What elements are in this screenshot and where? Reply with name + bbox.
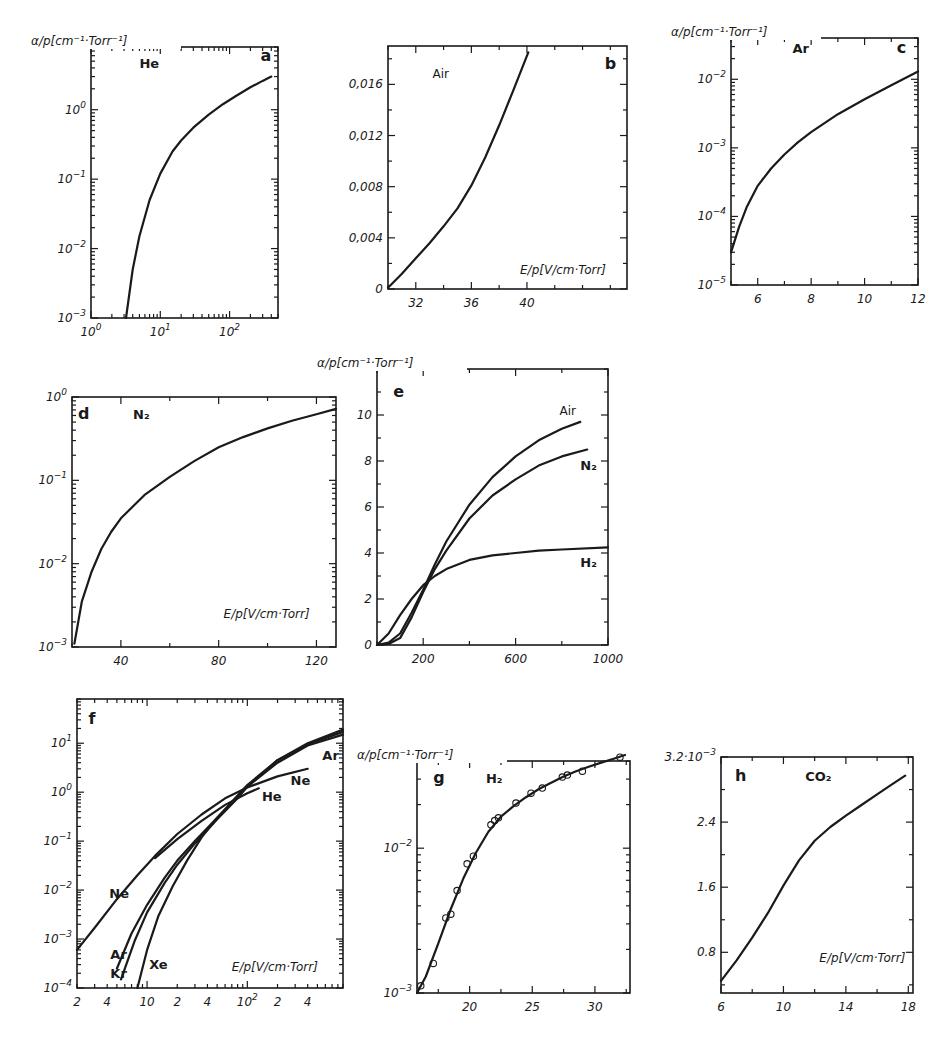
y-tick-label: 10−3 bbox=[57, 308, 86, 325]
panel-letter: g bbox=[433, 768, 444, 787]
x-tick-label: 1000 bbox=[593, 652, 624, 666]
series-label: N₂ bbox=[133, 407, 150, 422]
y-tick-label: 6 bbox=[364, 500, 372, 514]
x-tick-label: 30 bbox=[587, 1000, 603, 1014]
panel-letter: h bbox=[735, 766, 746, 785]
y-axis-title: α/p[cm⁻¹·Torr⁻¹] bbox=[357, 748, 454, 762]
y-tick-label: 10−3 bbox=[38, 637, 67, 654]
y-axis-title: α/p[cm⁻¹·Torr⁻¹] bbox=[31, 34, 128, 48]
x-tick-label: 32 bbox=[408, 296, 423, 310]
multi-panel-chart: 10010110210−310−210−1100α/p[cm⁻¹·Torr⁻¹]… bbox=[0, 0, 948, 1040]
y-tick-label: 10−2 bbox=[57, 239, 86, 256]
series-label: Air bbox=[432, 67, 449, 81]
x-tick-label: 101 bbox=[150, 322, 171, 339]
curve-ar bbox=[731, 72, 918, 253]
series-label: H₂ bbox=[580, 555, 597, 570]
series-label: CO₂ bbox=[805, 769, 831, 784]
x-axis-title: E/p[V/cm·Torr] bbox=[224, 607, 310, 621]
y-tick-label: 0 bbox=[375, 282, 383, 296]
x-tick-label: 20 bbox=[462, 1000, 478, 1014]
x-tick-label: 10 bbox=[139, 995, 155, 1009]
y-tick-label: 8 bbox=[364, 454, 372, 468]
x-tick-label: 4 bbox=[304, 995, 312, 1009]
series-label: Ne bbox=[291, 773, 311, 788]
x-tick-label: 102 bbox=[219, 322, 240, 339]
curve-air bbox=[377, 422, 580, 645]
y-tick-label: 3.2·10−3 bbox=[665, 747, 717, 764]
y-tick-label: 2 bbox=[364, 592, 372, 606]
x-axis-title: E/p[V/cm·Torr] bbox=[819, 951, 905, 965]
y-tick-label: 101 bbox=[51, 733, 72, 750]
x-tick-label: 14 bbox=[838, 1000, 853, 1014]
x-tick-label: 80 bbox=[211, 654, 227, 668]
panel-d: 408012010−310−210−1100dN₂E/p[V/cm·Torr] bbox=[38, 387, 336, 668]
y-tick-label: 0,008 bbox=[349, 180, 384, 194]
x-tick-label: 600 bbox=[504, 652, 527, 666]
figure-canvas: 10010110210−310−210−1100α/p[cm⁻¹·Torr⁻¹]… bbox=[0, 0, 948, 1040]
x-tick-label: 2 bbox=[274, 995, 282, 1009]
x-tick-label: 4 bbox=[103, 995, 111, 1009]
y-tick-label: 0,012 bbox=[349, 129, 383, 143]
y-tick-label: 10−2 bbox=[383, 838, 412, 855]
x-tick-label: 6 bbox=[754, 292, 762, 306]
series-label: He bbox=[262, 789, 282, 804]
x-tick-label: 2 bbox=[73, 995, 81, 1009]
series-label: H₂ bbox=[486, 771, 503, 786]
y-tick-label: 10−2 bbox=[697, 69, 726, 86]
series-label: N₂ bbox=[580, 458, 597, 473]
y-axis-title: α/p[cm⁻¹·Torr⁻¹] bbox=[317, 356, 414, 370]
x-tick-label: 2 bbox=[173, 995, 181, 1009]
y-tick-label: 100 bbox=[65, 100, 86, 117]
x-tick-label: 4 bbox=[204, 995, 212, 1009]
panel-c: 68101210−510−410−310−2α/p[cm⁻¹·Torr⁻¹]Ar… bbox=[671, 24, 926, 306]
panel-e: 20060010000246810α/p[cm⁻¹·Torr⁻¹]eAirN₂H… bbox=[317, 355, 624, 666]
series-label: He bbox=[139, 56, 159, 71]
x-tick-label: 200 bbox=[412, 652, 435, 666]
x-tick-label: 18 bbox=[901, 1000, 917, 1014]
curve-he bbox=[155, 788, 259, 858]
series-label: Air bbox=[559, 404, 576, 418]
x-axis-title: E/p[V/cm·Torr] bbox=[520, 263, 606, 277]
x-axis-title: E/p[V/cm·Torr] bbox=[232, 960, 318, 974]
y-tick-label: 0 bbox=[364, 638, 372, 652]
series-label: Ar bbox=[322, 748, 339, 763]
y-tick-label: 10−3 bbox=[697, 138, 726, 155]
x-tick-label: 25 bbox=[525, 1000, 540, 1014]
y-tick-label: 10−4 bbox=[43, 978, 72, 995]
y-tick-label: 10 bbox=[357, 408, 373, 422]
x-tick-label: 36 bbox=[464, 296, 480, 310]
panel-b: 32364000,0040,0080,0120,016AirbE/p[V/cm·… bbox=[349, 46, 627, 310]
x-tick-label: 100 bbox=[80, 322, 101, 339]
series-label: Ar bbox=[110, 947, 127, 962]
plot-frame bbox=[731, 38, 918, 285]
curve-hfit bbox=[417, 755, 625, 993]
curve-co bbox=[721, 776, 905, 981]
x-tick-label: 40 bbox=[113, 654, 129, 668]
y-tick-label: 4 bbox=[364, 546, 372, 560]
panel-letter: e bbox=[393, 382, 404, 401]
y-tick-label: 10−1 bbox=[43, 831, 72, 848]
series-label: Ne bbox=[109, 886, 129, 901]
panel-letter: c bbox=[897, 38, 906, 57]
panel-g: 20253010−310−2α/p[cm⁻¹·Torr⁻¹]gH₂ bbox=[357, 747, 630, 1014]
series-label: Ar bbox=[792, 41, 809, 56]
panel-a: 10010110210−310−210−1100α/p[cm⁻¹·Torr⁻¹]… bbox=[31, 33, 278, 339]
y-tick-label: 1.6 bbox=[697, 880, 716, 894]
panel-letter: a bbox=[261, 46, 272, 65]
plot-frame bbox=[77, 699, 343, 988]
curve-n bbox=[377, 450, 587, 646]
y-tick-label: 10−1 bbox=[57, 169, 86, 186]
series-label: Kr bbox=[110, 966, 127, 981]
x-tick-label: 8 bbox=[807, 292, 815, 306]
panel-letter: f bbox=[88, 709, 96, 728]
y-tick-label: 100 bbox=[46, 387, 67, 404]
panel-h: 61014180.81.62.43.2·10−3hCO₂E/p[V/cm·Tor… bbox=[665, 747, 917, 1014]
panel-letter: d bbox=[78, 404, 89, 423]
curve-air bbox=[388, 52, 528, 287]
y-tick-label: 10−2 bbox=[38, 554, 67, 571]
y-axis-title: α/p[cm⁻¹·Torr⁻¹] bbox=[671, 25, 768, 39]
curve-xe bbox=[137, 730, 343, 988]
y-tick-label: 0.8 bbox=[697, 945, 716, 959]
curve-he bbox=[126, 77, 271, 318]
y-tick-label: 0,016 bbox=[349, 77, 384, 91]
